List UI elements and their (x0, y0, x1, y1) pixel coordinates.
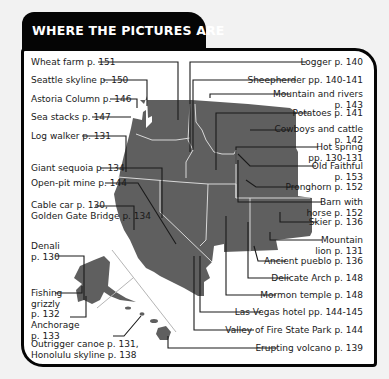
label-cowboys-cattle-line1: Cowboys and cattle (274, 124, 363, 135)
label-hot-spring: Hot spring pp. 130-131 (308, 142, 363, 163)
label-barn-horse-line1: Barn with (306, 197, 363, 208)
label-ancient-pueblo: Ancient pueblo p. 136 (264, 256, 363, 267)
label-valley-of-fire: Valley of Fire State Park p. 144 (225, 325, 363, 336)
label-anchorage-line1: Anchorage (31, 320, 80, 331)
label-old-faithful: Old Faithful p. 153 (312, 161, 363, 182)
label-delicate-arch: Delicate Arch p. 148 (271, 273, 363, 284)
label-outrigger-canoe: Outrigger canoe p. 131, Honolulu skyline… (31, 339, 139, 360)
label-seattle-skyline: Seattle skyline p. 150 (31, 75, 128, 86)
label-mountain-rivers: Mountain and rivers p. 143 (273, 89, 363, 110)
label-mountain-lion-line2: lion p. 131 (315, 246, 363, 257)
label-logger: Logger p. 140 (301, 57, 364, 68)
label-outrigger-canoe-line2: Honolulu skyline p. 138 (31, 350, 139, 361)
hawaii-island-niihau (125, 307, 131, 310)
label-denali-line1: Denali (31, 241, 60, 252)
label-mountain-lion: Mountain lion p. 131 (315, 235, 363, 256)
hawaii-island-oahu (140, 312, 145, 316)
label-denali-line2: p. 130 (31, 252, 60, 263)
label-giant-sequoia: Giant sequoia p. 134 (31, 163, 125, 174)
label-cable-car-line2: Golden Gate Bridge p. 134 (31, 211, 151, 222)
label-mountain-lion-line1: Mountain (315, 235, 363, 246)
label-wheat-farm: Wheat farm p. 151 (31, 57, 116, 68)
label-anchorage: Anchorage p. 133 (31, 320, 80, 341)
label-cable-car-line1: Cable car p. 130, (31, 200, 151, 211)
label-las-vegas-hotel: Las Vegas hotel pp. 144-145 (235, 307, 363, 318)
label-sea-stacks: Sea stacks p. 147 (31, 112, 111, 123)
label-barn-horse: Barn with horse p. 152 (306, 197, 363, 218)
label-outrigger-canoe-line1: Outrigger canoe p. 131, (31, 339, 139, 350)
label-mormon-temple: Mormon temple p. 148 (260, 290, 363, 301)
label-pronghorn: Pronghorn p. 152 (285, 182, 363, 193)
label-denali: Denali p. 130 (31, 241, 60, 262)
hawaii-island-maui (150, 319, 158, 323)
hawaii-island-big (156, 326, 171, 340)
label-fishing-grizzly-line1: Fishing (31, 288, 62, 299)
label-log-walker: Log walker p. 131 (31, 131, 111, 142)
label-sheepherder: Sheepherder pp. 140-141 (247, 75, 363, 86)
label-mountain-rivers-line1: Mountain and rivers (273, 89, 363, 100)
label-astoria-column: Astoria Column p. 146 (31, 94, 131, 105)
label-open-pit-mine: Open-pit mine p. 144 (31, 178, 127, 189)
label-erupting-volcano: Erupting volcano p. 139 (255, 343, 363, 354)
label-skier: Skier p. 136 (309, 217, 363, 228)
alaska (74, 256, 136, 304)
label-fishing-grizzly-line3: p. 132 (31, 309, 62, 320)
label-cable-car: Cable car p. 130, Golden Gate Bridge p. … (31, 200, 151, 221)
label-fishing-grizzly-line2: grizzly (31, 299, 62, 310)
label-old-faithful-line2: p. 153 (312, 172, 363, 183)
label-hot-spring-line1: Hot spring (308, 142, 363, 153)
label-fishing-grizzly: Fishing grizzly p. 132 (31, 288, 62, 320)
label-potatoes: Potatoes p. 141 (293, 108, 363, 119)
label-old-faithful-line1: Old Faithful (312, 161, 363, 172)
